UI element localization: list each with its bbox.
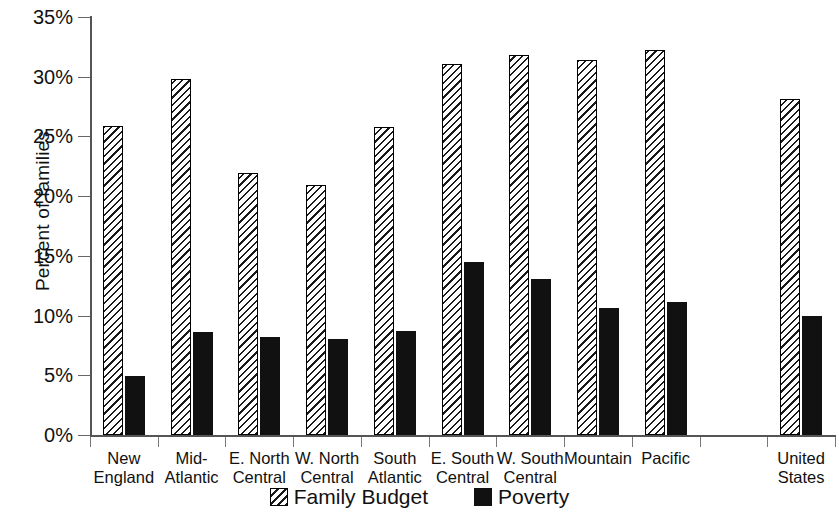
y-tick-label: 0%: [0, 425, 73, 445]
bar-poverty: [531, 279, 551, 435]
y-tick-mark: [78, 316, 90, 317]
y-tick-mark: [78, 136, 90, 137]
x-axis-label-line: Central: [429, 468, 497, 487]
bar-poverty: [193, 332, 213, 435]
x-axis-line: [90, 435, 836, 437]
x-axis-label-line: Mid-: [158, 449, 226, 468]
y-tick-mark: [78, 375, 90, 376]
x-axis-label-line: E. North: [225, 449, 293, 468]
y-tick-label: 15%: [0, 246, 73, 266]
y-tick-label: 10%: [0, 306, 73, 326]
bar-poverty: [260, 337, 280, 435]
legend-item: Poverty: [474, 486, 569, 507]
x-tick-mark: [632, 437, 633, 447]
x-axis-label: Mid-Atlantic: [158, 449, 226, 487]
bar-family-budget: [645, 50, 665, 435]
y-tick-label: 20%: [0, 186, 73, 206]
bar-poverty: [464, 262, 484, 435]
y-tick-mark: [78, 17, 90, 18]
y-tick-label: 5%: [0, 365, 73, 385]
x-axis-label-line: Atlantic: [158, 468, 226, 487]
y-tick-mark: [78, 435, 90, 436]
x-axis-label-line: W. North: [293, 449, 361, 468]
x-axis-label: W. SouthCentral: [496, 449, 564, 487]
y-tick-mark: [78, 196, 90, 197]
x-tick-mark: [90, 437, 91, 447]
x-axis-label: E. SouthCentral: [429, 449, 497, 487]
bar-family-budget: [374, 127, 394, 435]
bar-poverty: [396, 331, 416, 435]
y-tick-label: 25%: [0, 126, 73, 146]
x-tick-mark: [429, 437, 430, 447]
x-axis-label-line: Pacific: [632, 449, 700, 468]
x-axis-label: W. NorthCentral: [293, 449, 361, 487]
legend-label: Family Budget: [294, 486, 428, 507]
y-tick-label: 35%: [0, 7, 73, 27]
x-tick-mark: [700, 437, 701, 447]
filled-square-icon: [474, 488, 492, 506]
x-axis-label: UnitedStates: [767, 449, 835, 487]
x-axis-label-line: South: [361, 449, 429, 468]
y-tick-mark: [78, 77, 90, 78]
bar-poverty: [125, 376, 145, 435]
bar-poverty: [328, 339, 348, 435]
x-tick-mark: [225, 437, 226, 447]
x-axis-label: Mountain: [564, 449, 632, 468]
chart-legend: Family BudgetPoverty: [0, 486, 839, 507]
bar-family-budget: [577, 60, 597, 435]
x-axis-label-line: States: [767, 468, 835, 487]
y-tick-label: 30%: [0, 67, 73, 87]
x-axis-label: SouthAtlantic: [361, 449, 429, 487]
bar-poverty: [802, 316, 822, 435]
legend-item: Family Budget: [270, 486, 428, 507]
x-tick-mark: [496, 437, 497, 447]
x-axis-label-line: England: [90, 468, 158, 487]
x-tick-mark: [835, 437, 836, 447]
x-axis-label-line: Central: [225, 468, 293, 487]
x-axis-label-line: Mountain: [564, 449, 632, 468]
x-tick-mark: [361, 437, 362, 447]
bar-chart: Percent of families 0%5%10%15%20%25%30%3…: [0, 0, 839, 518]
bar-family-budget: [171, 79, 191, 435]
x-tick-mark: [767, 437, 768, 447]
x-tick-mark: [564, 437, 565, 447]
hatched-square-icon: [270, 488, 288, 506]
y-tick-mark: [78, 256, 90, 257]
bar-family-budget: [780, 99, 800, 435]
bar-family-budget: [238, 173, 258, 435]
x-axis-label: NewEngland: [90, 449, 158, 487]
x-axis-label-line: New: [90, 449, 158, 468]
x-axis-label-line: E. South: [429, 449, 497, 468]
bar-family-budget: [306, 185, 326, 435]
x-axis-label: E. NorthCentral: [225, 449, 293, 487]
legend-label: Poverty: [498, 486, 569, 507]
bar-family-budget: [442, 64, 462, 435]
x-tick-mark: [158, 437, 159, 447]
x-axis-label-line: United: [767, 449, 835, 468]
bar-family-budget: [103, 126, 123, 435]
plot-area: [90, 17, 835, 435]
bar-family-budget: [509, 55, 529, 435]
x-tick-mark: [293, 437, 294, 447]
x-axis-label-line: W. South: [496, 449, 564, 468]
bar-poverty: [599, 308, 619, 435]
x-axis-label: Pacific: [632, 449, 700, 468]
bar-poverty: [667, 302, 687, 435]
